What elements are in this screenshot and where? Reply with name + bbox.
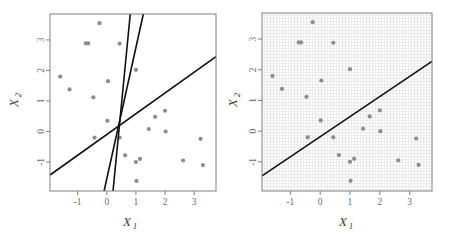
y-tick-label: 2 (36, 68, 46, 73)
data-point (91, 95, 95, 99)
y-tick-label: -1 (248, 158, 258, 166)
y-tick-label: 0 (248, 129, 258, 134)
data-point (201, 163, 205, 167)
x-axis-title-subscript: 1 (349, 221, 354, 231)
x-tick-label: 1 (134, 197, 139, 207)
right-plot-svg: -10123 -10123 X 1 X 2 (225, 0, 449, 238)
data-point (198, 137, 202, 141)
x-axis-ticks: -10123 (74, 191, 197, 207)
data-point (368, 114, 372, 118)
x-axis-ticks: -10123 (286, 191, 412, 207)
data-point (67, 87, 71, 91)
data-point (123, 153, 127, 157)
y-tick-label: 3 (36, 37, 46, 42)
data-point (163, 109, 167, 113)
x-axis-title: X 1 (122, 214, 137, 231)
data-point (164, 129, 168, 133)
data-point (58, 74, 62, 78)
x-tick-label: -1 (286, 197, 294, 207)
data-point (378, 129, 382, 133)
x-tick-label: 0 (104, 197, 109, 207)
x-tick-label: 2 (377, 197, 382, 207)
data-point (306, 135, 310, 139)
x-tick-label: 2 (163, 197, 168, 207)
data-point (118, 42, 122, 46)
data-point (311, 20, 315, 24)
y-tick-label: 1 (248, 98, 258, 103)
y-tick-label: -1 (36, 158, 46, 166)
data-point (97, 21, 101, 25)
x-axis-title-subscript: 1 (133, 221, 138, 231)
data-point (348, 67, 352, 71)
data-point (134, 68, 138, 72)
y-tick-label: 0 (36, 129, 46, 134)
y-axis-title-subscript: 2 (232, 92, 242, 97)
x-tick-label: 0 (318, 197, 323, 207)
y-axis-title-text: X (6, 98, 21, 108)
y-axis-ticks: -10123 (248, 36, 262, 165)
data-point (181, 158, 185, 162)
y-axis-title-text: X (225, 98, 240, 108)
data-point (319, 78, 323, 82)
data-point (361, 127, 365, 131)
y-tick-label: 2 (248, 67, 258, 72)
data-point (299, 40, 303, 44)
data-point (348, 179, 352, 183)
x-tick-label: 1 (348, 197, 353, 207)
x-tick-label: 3 (192, 197, 197, 207)
data-point (396, 158, 400, 162)
left-plot-panel: -10123 -10123 X 1 X 2 (0, 0, 225, 238)
x-tick-label: -1 (74, 197, 82, 207)
y-axis-title: X 2 (225, 92, 242, 108)
data-point (280, 87, 284, 91)
y-tick-label: 1 (36, 98, 46, 103)
x-axis-title-text: X (338, 214, 348, 229)
data-point (134, 179, 138, 183)
data-point (414, 136, 418, 140)
data-point (319, 118, 323, 122)
x-tick-label: 3 (407, 197, 412, 207)
data-point (138, 157, 142, 161)
left-plot-svg: -10123 -10123 X 1 X 2 (0, 0, 225, 238)
data-point (416, 163, 420, 167)
data-point (105, 119, 109, 123)
data-point (92, 135, 96, 139)
plot-background (50, 14, 216, 191)
separating-hyperplanes-figure: -10123 -10123 X 1 X 2 (0, 0, 449, 238)
data-point (378, 108, 382, 112)
data-point (348, 160, 352, 164)
data-point (134, 160, 138, 164)
x-axis-title: X 1 (338, 214, 353, 231)
y-tick-label: 3 (248, 36, 258, 41)
x-axis-title-text: X (122, 214, 132, 229)
data-point (304, 95, 308, 99)
data-point (147, 127, 151, 131)
y-axis-title-subscript: 2 (13, 92, 23, 97)
data-point (270, 74, 274, 78)
data-point (86, 41, 90, 45)
data-point (331, 41, 335, 45)
y-axis-title: X 2 (6, 92, 23, 108)
data-point (352, 157, 356, 161)
data-point (331, 135, 335, 139)
y-axis-ticks: -10123 (36, 37, 50, 166)
data-point (153, 115, 157, 119)
data-point (337, 153, 341, 157)
data-point (106, 79, 110, 83)
plot-background-grid (262, 13, 432, 191)
right-plot-panel: -10123 -10123 X 1 X 2 (225, 0, 449, 238)
